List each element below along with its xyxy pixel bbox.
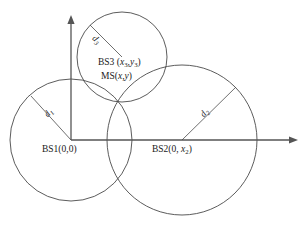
bs3-label-sub-y: 3 [134, 61, 137, 68]
ms-label-suffix: ) [129, 71, 132, 81]
ms-label-prefix: MS( [101, 71, 118, 81]
bs2-label-prefix: BS2(0, [152, 144, 181, 154]
bs3-label-prefix: BS3 ( [98, 57, 120, 67]
bs3-label-sub-x: 3 [124, 61, 127, 68]
bs2-label-sub: 2 [185, 148, 188, 155]
bs2-label: BS2(0, x2) [152, 145, 192, 155]
x-axis-arrowhead-icon [289, 136, 298, 143]
ms-label: MS(x,y) [101, 72, 132, 82]
bs1-label-text: BS1(0,0) [42, 144, 77, 154]
y-axis-arrowhead-icon [67, 15, 74, 24]
d1-radius-line [31, 96, 71, 140]
bs2-label-suffix: ) [189, 144, 192, 154]
bs3-label-suffix: ) [138, 57, 141, 67]
bs1-label: BS1(0,0) [42, 145, 77, 155]
trilateration-figure: BS1(0,0) BS2(0, x2) BS3 (x3,y3) MS(x,y) … [0, 0, 307, 231]
bs3-label: BS3 (x3,y3) [98, 58, 141, 68]
